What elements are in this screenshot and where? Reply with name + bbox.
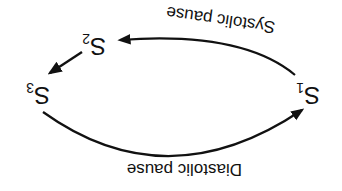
node-s3-base: S bbox=[34, 82, 50, 109]
diastolic-arc bbox=[43, 110, 302, 156]
node-s3-sub: 3 bbox=[26, 80, 34, 96]
node-s1: S1 bbox=[296, 81, 320, 107]
node-s2-base: S bbox=[90, 33, 106, 60]
node-s3: S3 bbox=[26, 81, 50, 107]
systolic-arc bbox=[120, 38, 295, 75]
node-s1-sub: 1 bbox=[296, 80, 304, 96]
heart-sound-cycle-diagram: S1 S2 S3 Diastolic pause Systolic pause bbox=[0, 0, 342, 191]
node-s1-base: S bbox=[304, 82, 320, 109]
s2-to-s3-arrow bbox=[50, 52, 82, 73]
node-s2: S2 bbox=[82, 32, 106, 58]
diastolic-pause-label: Diastolic pause bbox=[127, 159, 242, 179]
node-s2-sub: 2 bbox=[82, 31, 90, 47]
